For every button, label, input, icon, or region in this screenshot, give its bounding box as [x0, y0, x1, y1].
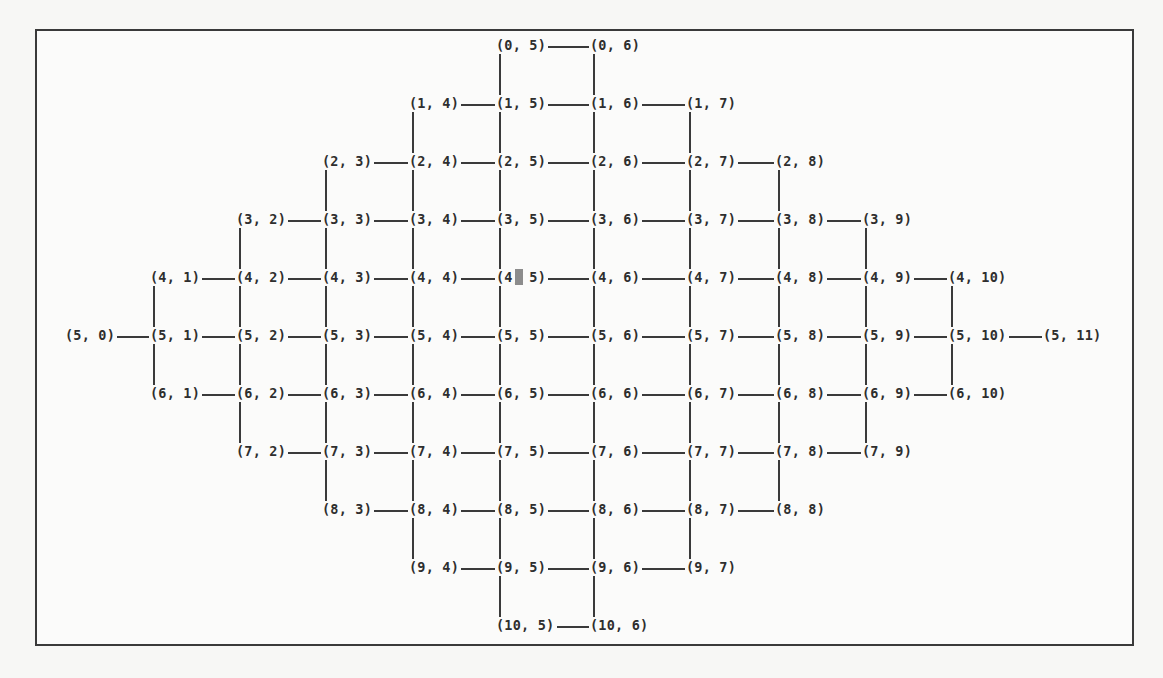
edge-h-2-5	[548, 162, 589, 164]
edge-h-8-4	[461, 510, 495, 512]
edge-h-8-7	[738, 510, 774, 512]
node-6-9: (6, 9)	[862, 385, 912, 401]
edge-v-3-6	[593, 228, 595, 269]
node-5-5: (5, 5)	[496, 327, 546, 343]
edge-h-6-2	[288, 394, 321, 396]
edge-h-3-7	[738, 220, 774, 222]
edge-h-6-4	[461, 394, 495, 396]
edge-v-4-4	[412, 286, 414, 327]
edge-h-5-5	[548, 336, 589, 338]
edge-h-5-6	[642, 336, 685, 338]
node-7-5: (7, 5)	[496, 443, 546, 459]
edge-v-5-3	[325, 344, 327, 385]
node-2-7: (2, 7)	[686, 153, 736, 169]
edge-h-2-6	[642, 162, 685, 164]
node-0-5: (0, 5)	[496, 37, 546, 53]
edge-v-1-6	[593, 112, 595, 153]
edge-v-5-10	[951, 344, 953, 385]
edge-h-3-3	[374, 220, 408, 222]
node-4-1: (4, 1)	[150, 269, 200, 285]
edge-h-7-6	[642, 452, 685, 454]
edge-v-7-3	[325, 460, 327, 501]
edge-v-5-5	[499, 344, 501, 385]
edge-h-6-6	[642, 394, 685, 396]
edge-v-1-4	[412, 112, 414, 153]
edge-v-6-8	[778, 402, 780, 443]
edge-h-4-9	[914, 278, 947, 280]
edge-h-8-3	[374, 510, 408, 512]
edge-h-3-5	[548, 220, 589, 222]
edge-v-8-6	[593, 518, 595, 559]
edge-h-9-6	[642, 568, 685, 570]
node-5-0: (5, 0)	[65, 327, 115, 343]
edge-h-4-8	[827, 278, 861, 280]
edge-h-6-1	[202, 394, 235, 396]
node-7-9: (7, 9)	[862, 443, 912, 459]
edge-h-7-8	[827, 452, 861, 454]
edge-v-4-5	[499, 286, 501, 327]
node-8-8: (8, 8)	[775, 501, 825, 517]
edge-v-7-6	[593, 460, 595, 501]
edge-v-2-3	[325, 170, 327, 211]
edge-v-3-9	[865, 228, 867, 269]
node-4-9: (4, 9)	[862, 269, 912, 285]
edge-h-6-5	[548, 394, 589, 396]
edge-h-6-8	[827, 394, 861, 396]
edge-h-6-9	[914, 394, 947, 396]
node-5-10: (5, 10)	[948, 327, 1006, 343]
edge-v-6-9	[865, 402, 867, 443]
edge-v-6-5	[499, 402, 501, 443]
node-6-3: (6, 3)	[322, 385, 372, 401]
node-1-7: (1, 7)	[686, 95, 736, 111]
node-5-7: (5, 7)	[686, 327, 736, 343]
edge-h-1-5	[548, 104, 589, 106]
node-7-4: (7, 4)	[409, 443, 459, 459]
node-9-4: (9, 4)	[409, 559, 459, 575]
edge-h-2-3	[374, 162, 408, 164]
node-9-5: (9, 5)	[496, 559, 546, 575]
node-5-4: (5, 4)	[409, 327, 459, 343]
node-7-8: (7, 8)	[775, 443, 825, 459]
node-6-7: (6, 7)	[686, 385, 736, 401]
edge-h-3-8	[827, 220, 861, 222]
edge-v-3-3	[325, 228, 327, 269]
node-0-6: (0, 6)	[590, 37, 640, 53]
node-5-6: (5, 6)	[590, 327, 640, 343]
edge-h-3-4	[461, 220, 495, 222]
edge-v-4-10	[951, 286, 953, 327]
edge-v-7-5	[499, 460, 501, 501]
edge-v-6-4	[412, 402, 414, 443]
edge-h-7-4	[461, 452, 495, 454]
edge-v-5-8	[778, 344, 780, 385]
edge-h-2-4	[461, 162, 495, 164]
node-8-3: (8, 3)	[322, 501, 372, 517]
edge-v-5-9	[865, 344, 867, 385]
node-4-3: (4, 3)	[322, 269, 372, 285]
node-8-6: (8, 6)	[590, 501, 640, 517]
edge-h-8-6	[642, 510, 685, 512]
node-6-6: (6, 6)	[590, 385, 640, 401]
edge-h-5-0	[117, 336, 149, 338]
edge-v-7-4	[412, 460, 414, 501]
node-2-3: (2, 3)	[322, 153, 372, 169]
node-6-1: (6, 1)	[150, 385, 200, 401]
edge-h-0-5	[548, 46, 589, 48]
node-1-6: (1, 6)	[590, 95, 640, 111]
node-10-5: (10, 5)	[496, 617, 554, 633]
edge-h-2-7	[738, 162, 774, 164]
node-7-2: (7, 2)	[236, 443, 286, 459]
edge-h-4-5	[548, 278, 589, 280]
node-10-6: (10, 6)	[590, 617, 648, 633]
edge-h-7-5	[548, 452, 589, 454]
node-9-7: (9, 7)	[686, 559, 736, 575]
edge-v-6-6	[593, 402, 595, 443]
edge-h-5-10	[1009, 336, 1043, 338]
edge-h-6-3	[374, 394, 408, 396]
edge-v-4-9	[865, 286, 867, 327]
node-8-5: (8, 5)	[496, 501, 546, 517]
node-8-7: (8, 7)	[686, 501, 736, 517]
node-3-3: (3, 3)	[322, 211, 372, 227]
node-6-4: (6, 4)	[409, 385, 459, 401]
edge-v-3-4	[412, 228, 414, 269]
node-3-9: (3, 9)	[862, 211, 912, 227]
